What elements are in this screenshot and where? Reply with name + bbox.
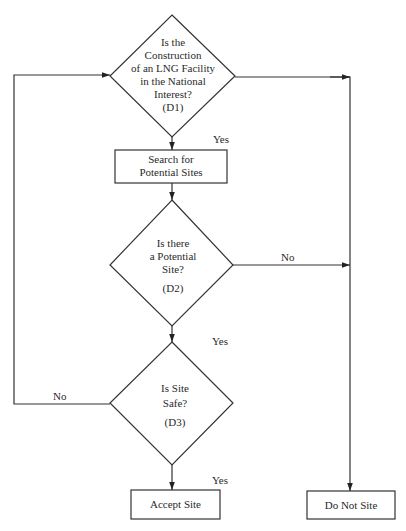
process-reject-label: Do Not Site <box>307 499 395 512</box>
process-accept: Accept Site <box>131 498 220 511</box>
edge-label-d3-yes: Yes <box>212 474 228 487</box>
decision-d1: Is the Construction of an LNG Facility i… <box>112 36 234 114</box>
edge-label-d3-no: No <box>53 390 66 403</box>
edge-label-d2-no: No <box>281 251 294 264</box>
decision-d1-line: Interest? <box>112 88 234 101</box>
edge-d1-reject <box>235 77 350 491</box>
decision-d2-line: (D2) <box>128 282 218 295</box>
process-reject: Do Not Site <box>307 499 395 512</box>
decision-d1-line: Is the <box>112 36 234 49</box>
process-search-line: Search for <box>115 153 227 166</box>
edge-label-d1-yes: Yes <box>213 133 229 146</box>
decision-d1-line: Construction <box>112 49 234 62</box>
process-search-line: Potential Sites <box>115 166 227 179</box>
decision-d2-line: Is there <box>128 237 218 250</box>
decision-d1-line: in the National <box>112 75 234 88</box>
edge-d3-d1 <box>14 75 110 404</box>
process-accept-label: Accept Site <box>131 498 220 511</box>
decision-d3-line: (D3) <box>130 416 220 429</box>
process-search: Search for Potential Sites <box>115 153 227 179</box>
decision-d2-line: Site? <box>128 263 218 276</box>
decision-d1-line: of an LNG Facility <box>112 62 234 75</box>
decision-d3-line: Is Site <box>130 382 220 395</box>
decision-d2: Is there a Potential Site? (D2) <box>128 237 218 295</box>
decision-d3: Is Site Safe? (D3) <box>130 382 220 429</box>
decision-d3-line: Safe? <box>130 397 220 410</box>
edge-label-d2-yes: Yes <box>212 335 228 348</box>
decision-d1-line: (D1) <box>112 101 234 114</box>
decision-d2-line: a Potential <box>128 250 218 263</box>
